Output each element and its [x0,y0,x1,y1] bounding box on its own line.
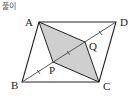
vertex-label-c: C [103,80,110,92]
parallelogram-figure: A D B C P Q [0,0,136,100]
vertex-label-d: D [120,16,128,28]
vertex-label-a: A [25,16,33,28]
vertex-label-b: B [11,79,18,91]
vertex-label-p: P [49,64,55,76]
vertex-label-q: Q [89,40,97,52]
